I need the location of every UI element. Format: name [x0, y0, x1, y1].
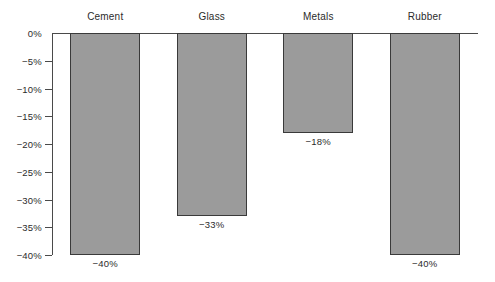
bar-chart: 0%−5%−10%−15%−20%−25%−30%−35%−40% Cement…	[0, 0, 495, 282]
y-axis-tick-label: −5%	[0, 55, 42, 66]
y-axis-tick	[45, 116, 52, 117]
y-axis-tick	[45, 200, 52, 201]
bar-column: Glass−33%	[177, 0, 247, 282]
bar-value-label-metals: −18%	[283, 136, 353, 147]
y-axis-tick-label: −15%	[0, 111, 42, 122]
bar-cement[interactable]	[70, 33, 140, 255]
y-axis-tick-label: −30%	[0, 194, 42, 205]
y-axis-tick	[45, 89, 52, 90]
bar-column: Rubber−40%	[390, 0, 460, 282]
y-axis-tick	[45, 255, 52, 256]
category-label-metals: Metals	[283, 11, 353, 22]
y-axis-tick	[45, 144, 52, 145]
y-axis-tick-label: −10%	[0, 83, 42, 94]
y-axis-tick-label: −20%	[0, 139, 42, 150]
bar-column: Cement−40%	[70, 0, 140, 282]
bar-value-label-cement: −40%	[70, 258, 140, 269]
y-axis-spine	[52, 33, 53, 255]
y-axis-tick-label: −25%	[0, 166, 42, 177]
bar-value-label-rubber: −40%	[390, 258, 460, 269]
category-label-rubber: Rubber	[390, 11, 460, 22]
category-label-glass: Glass	[177, 11, 247, 22]
bar-column: Metals−18%	[283, 0, 353, 282]
y-axis-tick	[45, 61, 52, 62]
y-axis-tick	[45, 172, 52, 173]
bar-rubber[interactable]	[390, 33, 460, 255]
category-label-cement: Cement	[70, 11, 140, 22]
y-axis-tick-label: −40%	[0, 250, 42, 261]
bar-glass[interactable]	[177, 33, 247, 216]
y-axis-tick-label: 0%	[0, 28, 42, 39]
bar-metals[interactable]	[283, 33, 353, 133]
y-axis-tick	[45, 227, 52, 228]
bar-value-label-glass: −33%	[177, 219, 247, 230]
y-axis-tick-label: −35%	[0, 222, 42, 233]
